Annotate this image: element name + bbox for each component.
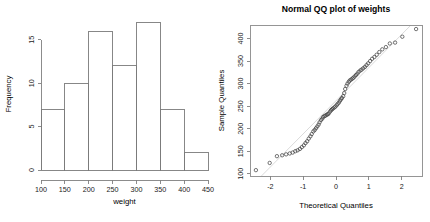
qq-points-group <box>254 27 418 171</box>
qq-data-point <box>384 45 387 48</box>
y-tick-label: 100 <box>236 168 245 180</box>
y-tick-label: 10 <box>27 79 36 87</box>
x-axis-title: Theoretical Quantiles <box>299 201 373 210</box>
histogram-bar <box>41 109 65 170</box>
y-tick-label: 400 <box>236 33 245 45</box>
x-tick-label: 1 <box>367 182 371 191</box>
qq-data-point <box>401 35 404 38</box>
qq-data-point <box>284 153 287 156</box>
x-tick-label: 200 <box>83 185 95 194</box>
qq-data-point <box>368 59 371 62</box>
qq-data-point <box>378 50 381 53</box>
r-graphics-figure: 051015100150200250300350400450weightFreq… <box>0 0 430 222</box>
x-tick-label: -2 <box>267 182 273 191</box>
qq-data-point <box>414 27 417 30</box>
y-tick-label: 200 <box>236 123 245 135</box>
qq-reference-line <box>250 14 422 188</box>
x-tick-label: 450 <box>202 185 214 194</box>
x-axis-title: weight <box>112 197 136 206</box>
y-tick-label: 5 <box>27 125 36 129</box>
x-tick-label: 100 <box>35 185 47 194</box>
histogram-bar <box>184 153 208 170</box>
histogram-bar <box>89 31 113 170</box>
qq-data-point <box>254 168 257 171</box>
y-tick-label: 150 <box>236 145 245 157</box>
histogram-bar <box>160 109 184 170</box>
qq-data-point <box>275 154 278 157</box>
qq-plot: Normal QQ plot of weights100150200250300… <box>215 0 430 222</box>
y-axis-title: Frequency <box>4 75 13 112</box>
y-tick-label: 0 <box>27 168 36 172</box>
x-tick-label: 2 <box>400 182 404 191</box>
histogram-plot: 051015100150200250300350400450weightFreq… <box>0 0 215 222</box>
x-tick-label: 350 <box>154 185 166 194</box>
x-tick-label: 300 <box>130 185 142 194</box>
y-tick-label: 250 <box>236 100 245 112</box>
qq-data-point <box>268 161 271 164</box>
histogram-bar <box>136 22 160 170</box>
x-tick-label: -1 <box>300 182 306 191</box>
y-axis-title: Sample Quantiles <box>217 70 226 132</box>
qq-data-point <box>381 48 384 51</box>
refline-group <box>250 14 422 188</box>
qq-plot-panel: Normal QQ plot of weights100150200250300… <box>215 0 430 222</box>
x-tick-label: 0 <box>334 182 338 191</box>
plot-title: Normal QQ plot of weights <box>282 4 391 14</box>
qq-data-point <box>370 57 373 60</box>
y-tick-label: 300 <box>236 78 245 90</box>
y-tick-label: 350 <box>236 55 245 67</box>
histogram-bar <box>65 83 89 170</box>
qq-data-point <box>330 108 333 111</box>
y-tick-label: 15 <box>27 36 36 44</box>
x-tick-label: 150 <box>59 185 71 194</box>
x-tick-label: 400 <box>178 185 190 194</box>
histogram-bar <box>113 66 137 170</box>
histogram-panel: 051015100150200250300350400450weightFreq… <box>0 0 215 222</box>
qq-data-point <box>375 53 378 56</box>
qq-data-point <box>388 42 391 45</box>
x-tick-label: 250 <box>107 185 119 194</box>
